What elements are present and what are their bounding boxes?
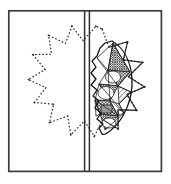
accent-cell [101, 105, 112, 113]
figure-canvas [0, 0, 171, 184]
page-background [0, 0, 171, 184]
figure-root [0, 0, 171, 184]
accent-cell [98, 87, 114, 100]
